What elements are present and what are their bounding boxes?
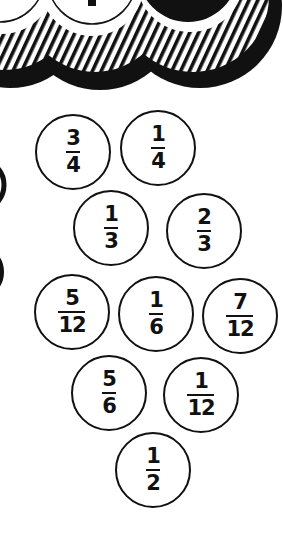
fraction-circle: 23	[166, 193, 242, 269]
fraction-circle: 14	[120, 110, 196, 186]
numerator: 1	[146, 446, 160, 467]
fraction-circle: 12	[115, 432, 191, 508]
fraction: 712	[226, 292, 253, 340]
fraction-circle: 34	[35, 114, 111, 190]
numerator: 1	[194, 371, 208, 392]
numerator: 1	[149, 290, 163, 311]
denominator: 12	[58, 315, 85, 336]
fraction: 14	[151, 124, 165, 172]
fraction: 12	[146, 446, 160, 494]
fraction: 34	[66, 128, 80, 176]
fraction: 512	[58, 288, 85, 336]
denominator: 4	[151, 151, 165, 172]
fraction: 16	[149, 290, 163, 338]
denominator: 6	[149, 317, 163, 338]
denominator: 6	[102, 396, 116, 417]
fraction-circle: 712	[202, 278, 278, 354]
numerator: 5	[65, 288, 79, 309]
fraction: 112	[187, 371, 214, 419]
denominator: 2	[146, 473, 160, 494]
numerator: 1	[104, 204, 118, 225]
fraction-circle: 13	[73, 190, 149, 266]
fraction: 13	[104, 204, 118, 252]
fraction-circle: 512	[34, 274, 110, 350]
fraction-circle: 56	[71, 355, 147, 431]
fraction-circle: 112	[163, 357, 239, 433]
denominator: 12	[226, 319, 253, 340]
numerator: 1	[151, 124, 165, 145]
denominator: 12	[187, 398, 214, 419]
numerator: 2	[197, 207, 211, 228]
left-edge-arcs	[0, 163, 4, 294]
fraction: 23	[197, 207, 211, 255]
denominator: 3	[104, 231, 118, 252]
scalloped-band	[0, 0, 282, 90]
numerator: 7	[233, 292, 247, 313]
numerator: 3	[66, 128, 80, 149]
fraction: 56	[102, 369, 116, 417]
denominator: 4	[66, 155, 80, 176]
denominator: 3	[197, 234, 211, 255]
numerator: 5	[102, 369, 116, 390]
fraction-circle: 16	[118, 276, 194, 352]
